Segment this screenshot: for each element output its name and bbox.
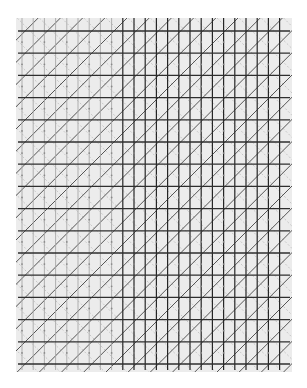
grid-dot bbox=[133, 130, 135, 132]
grid-dot bbox=[245, 330, 247, 332]
diagonal-line-down bbox=[0, 18, 16, 372]
grid-dot bbox=[111, 263, 113, 265]
grid-dot bbox=[223, 130, 225, 132]
grid-dot bbox=[133, 285, 135, 287]
grid-dot bbox=[245, 86, 247, 88]
grid-dot bbox=[223, 285, 225, 287]
grid-dot bbox=[133, 219, 135, 221]
grid-dot bbox=[88, 86, 90, 88]
grid-dot bbox=[268, 108, 270, 110]
grid-dot bbox=[88, 285, 90, 287]
grid-dot bbox=[178, 197, 180, 199]
grid-dot bbox=[44, 86, 46, 88]
grid-dot bbox=[88, 330, 90, 332]
grid-dot bbox=[111, 130, 113, 132]
grid-dot bbox=[156, 152, 158, 154]
grid-dot bbox=[245, 308, 247, 310]
grid-dot bbox=[66, 263, 68, 265]
grid-dot bbox=[44, 41, 46, 43]
grid-dot bbox=[178, 285, 180, 287]
grid-dot bbox=[88, 108, 90, 110]
grid-dot bbox=[21, 352, 23, 354]
grid-dot bbox=[223, 86, 225, 88]
grid-dot bbox=[66, 330, 68, 332]
grid-dot bbox=[178, 241, 180, 243]
grid-dot bbox=[200, 330, 202, 332]
grid-dot bbox=[245, 285, 247, 287]
grid-dot bbox=[200, 174, 202, 176]
grid-dot bbox=[111, 63, 113, 65]
grid-dot bbox=[156, 285, 158, 287]
grid-dot bbox=[66, 41, 68, 43]
grid-dot bbox=[268, 86, 270, 88]
grid-dot bbox=[21, 219, 23, 221]
grid-dot bbox=[156, 86, 158, 88]
grid-dot bbox=[21, 130, 23, 132]
grid-dot bbox=[133, 108, 135, 110]
grid-dot bbox=[44, 174, 46, 176]
grid-dot bbox=[44, 219, 46, 221]
grid-dot bbox=[44, 330, 46, 332]
grid-dot bbox=[133, 152, 135, 154]
grid-dot bbox=[245, 108, 247, 110]
grid-dot bbox=[245, 152, 247, 154]
grid-dot bbox=[66, 241, 68, 243]
grid-dot bbox=[178, 108, 180, 110]
grid-dot bbox=[44, 241, 46, 243]
grid-dot bbox=[178, 174, 180, 176]
grid-dot bbox=[178, 263, 180, 265]
grid-dot bbox=[178, 352, 180, 354]
grid-dot bbox=[111, 108, 113, 110]
grid-dot bbox=[21, 308, 23, 310]
grid-dot bbox=[66, 63, 68, 65]
grid-dot bbox=[178, 63, 180, 65]
grid-dot bbox=[111, 197, 113, 199]
grid-dot bbox=[133, 352, 135, 354]
grid-dot bbox=[133, 41, 135, 43]
grid-dot bbox=[21, 263, 23, 265]
grid-dot bbox=[156, 330, 158, 332]
grid-dot bbox=[111, 241, 113, 243]
grid-dot bbox=[223, 63, 225, 65]
grid-dot bbox=[21, 152, 23, 154]
grid-dot bbox=[44, 197, 46, 199]
grid-dot bbox=[156, 63, 158, 65]
grid-dot bbox=[268, 352, 270, 354]
grid-dot bbox=[44, 63, 46, 65]
grid-dot bbox=[178, 219, 180, 221]
grid-dot bbox=[21, 330, 23, 332]
diagonal-line-up bbox=[306, 18, 307, 372]
grid-dot bbox=[268, 241, 270, 243]
grid-dot bbox=[156, 41, 158, 43]
grid-dot bbox=[88, 152, 90, 154]
grid-dot bbox=[268, 285, 270, 287]
grid-dot bbox=[156, 241, 158, 243]
grid-dot bbox=[156, 108, 158, 110]
grid-dot bbox=[133, 330, 135, 332]
grid-dot bbox=[268, 330, 270, 332]
grid-dot bbox=[156, 197, 158, 199]
grid-dot bbox=[88, 174, 90, 176]
grid-dot bbox=[133, 197, 135, 199]
grid-dot bbox=[223, 330, 225, 332]
grid-dot bbox=[245, 41, 247, 43]
grid-dot bbox=[133, 263, 135, 265]
grid-dot bbox=[44, 108, 46, 110]
diagonal-line-down bbox=[306, 18, 307, 372]
grid-dot bbox=[88, 263, 90, 265]
grid-dot bbox=[21, 241, 23, 243]
grid-dot bbox=[21, 41, 23, 43]
grid-dot bbox=[200, 241, 202, 243]
grid-dot bbox=[44, 352, 46, 354]
grid-dot bbox=[111, 352, 113, 354]
grid-pattern bbox=[0, 0, 307, 388]
grid-dot bbox=[200, 285, 202, 287]
grid-dot bbox=[200, 219, 202, 221]
grid-dot bbox=[223, 352, 225, 354]
grid-dot bbox=[178, 308, 180, 310]
grid-dot bbox=[178, 41, 180, 43]
grid-dot bbox=[44, 285, 46, 287]
grid-dot bbox=[200, 86, 202, 88]
grid-dot bbox=[223, 197, 225, 199]
graph-paper-image: Graph-paper style pattern: gray panel wi… bbox=[0, 0, 307, 388]
